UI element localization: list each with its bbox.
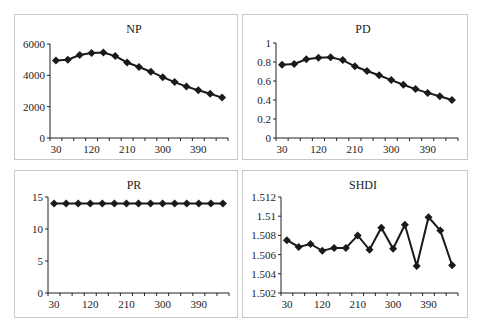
data-point-marker [171, 78, 179, 86]
x-tick-label: 120 [82, 298, 99, 310]
x-tick-label: 120 [314, 298, 331, 310]
data-point-marker [62, 199, 70, 207]
chart-canvas: NP020004000600030120210300390 PD00.20.40… [0, 0, 480, 328]
x-tick-label: 390 [419, 143, 436, 155]
y-tick-label: 2000 [23, 101, 46, 113]
data-point-marker [111, 52, 119, 60]
data-point-marker [302, 55, 310, 63]
x-tick-label: 30 [50, 143, 62, 155]
y-tick-label: 1.512 [251, 191, 276, 203]
data-point-marker [424, 89, 432, 97]
y-tick-label: 1.506 [251, 249, 276, 261]
data-point-marker [219, 199, 227, 207]
data-point-marker [147, 199, 155, 207]
data-point-marker [314, 54, 322, 62]
data-point-marker [307, 240, 315, 248]
data-point-marker [110, 199, 118, 207]
data-point-marker [123, 58, 131, 66]
data-point-marker [88, 49, 96, 57]
y-tick-label: 1.51 [257, 210, 276, 222]
data-point-marker [135, 63, 143, 71]
x-tick-label: 120 [310, 143, 327, 155]
pd-chart: PD00.20.40.60.8130120210300390 [257, 22, 458, 155]
data-point-marker [183, 199, 191, 207]
y-tick-label: 0 [38, 287, 44, 299]
y-tick-label: 1 [266, 37, 272, 49]
data-point-marker [363, 67, 371, 75]
data-point-marker [436, 92, 444, 100]
data-point-marker [295, 243, 303, 251]
x-tick-label: 30 [277, 143, 289, 155]
x-tick-label: 300 [385, 298, 402, 310]
data-point-marker [74, 199, 82, 207]
x-tick-label: 300 [383, 143, 400, 155]
y-tick-label: 6000 [23, 38, 46, 50]
y-tick-label: 0.2 [257, 113, 271, 125]
x-tick-label: 300 [154, 143, 171, 155]
data-point-marker [387, 76, 395, 84]
y-tick-label: 0 [266, 132, 272, 144]
y-tick-label: 0.6 [257, 75, 271, 87]
chart-title: NP [126, 22, 142, 36]
y-tick-label: 1.502 [251, 287, 276, 299]
y-tick-label: 10 [32, 223, 44, 235]
x-tick-label: 390 [420, 298, 437, 310]
x-tick-label: 390 [190, 143, 207, 155]
x-tick-label: 30 [49, 298, 61, 310]
data-point-marker [389, 245, 397, 253]
data-point-marker [76, 51, 84, 59]
data-point-marker [98, 199, 106, 207]
data-point-marker [50, 199, 58, 207]
data-point-marker [375, 71, 383, 79]
data-point-marker [448, 261, 456, 269]
data-point-marker [147, 68, 155, 76]
x-tick-label: 120 [83, 143, 100, 155]
x-tick-label: 300 [154, 298, 171, 310]
data-point-marker [159, 73, 167, 81]
data-point-marker [412, 85, 420, 93]
chart-title: SHDI [349, 178, 377, 192]
data-point-marker [182, 83, 190, 91]
shdi-chart: SHDI1.5021.5041.5061.5081.511.5123012021… [251, 178, 458, 310]
data-point-marker [351, 62, 359, 70]
x-tick-label: 210 [347, 143, 364, 155]
data-point-marker [399, 81, 407, 89]
y-tick-label: 0.8 [257, 56, 271, 68]
y-tick-label: 4000 [23, 69, 46, 81]
data-point-marker [218, 94, 226, 102]
data-point-marker [401, 221, 409, 229]
data-point-marker [318, 247, 326, 255]
data-point-marker [99, 49, 107, 57]
data-point-marker [207, 199, 215, 207]
x-tick-label: 210 [118, 298, 135, 310]
data-point-marker [283, 236, 291, 244]
np-chart: NP020004000600030120210300390 [23, 22, 228, 155]
data-point-marker [206, 90, 214, 98]
x-tick-label: 30 [281, 298, 293, 310]
y-tick-label: 1.504 [251, 268, 276, 280]
x-tick-label: 210 [119, 143, 136, 155]
x-tick-label: 210 [349, 298, 366, 310]
pr-chart: PR05101530120210300390 [32, 178, 229, 310]
y-tick-label: 0 [40, 132, 46, 144]
data-point-marker [194, 86, 202, 94]
y-tick-label: 0.4 [257, 94, 271, 106]
y-tick-label: 5 [38, 255, 44, 267]
data-point-marker [290, 60, 298, 68]
data-point-marker [86, 199, 94, 207]
data-point-marker [135, 199, 143, 207]
data-point-marker [195, 199, 203, 207]
x-tick-label: 390 [191, 298, 208, 310]
data-point-marker [122, 199, 130, 207]
data-point-marker [339, 56, 347, 64]
chart-title: PD [355, 22, 371, 36]
data-point-marker [64, 56, 72, 64]
data-point-marker [413, 262, 421, 270]
data-point-marker [278, 61, 286, 69]
y-tick-label: 15 [32, 191, 44, 203]
data-point-marker [159, 199, 167, 207]
data-point-marker [448, 96, 456, 104]
data-point-marker [52, 56, 60, 64]
data-point-marker [377, 224, 385, 232]
data-point-marker [171, 199, 179, 207]
